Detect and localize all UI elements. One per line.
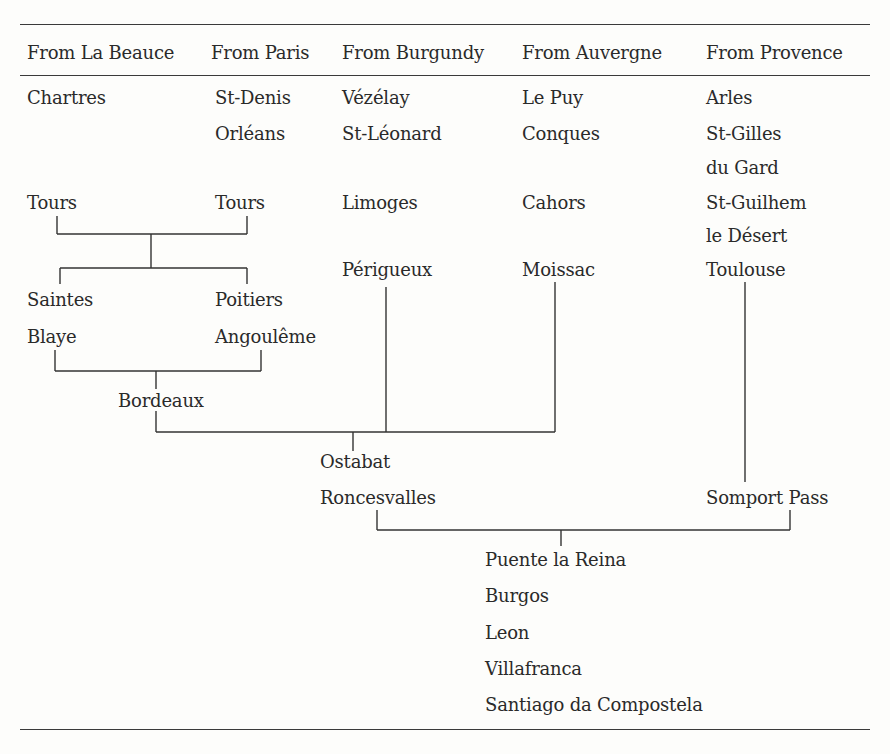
route-connector-lines	[0, 0, 890, 754]
